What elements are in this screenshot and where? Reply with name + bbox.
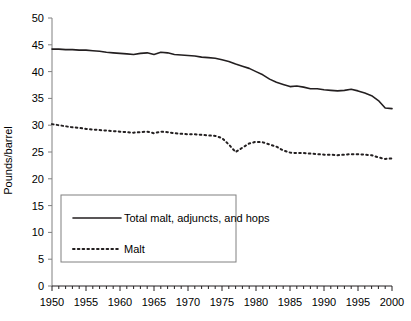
legend-label-1: Malt: [124, 243, 145, 255]
x-tick-label: 1960: [108, 296, 132, 308]
y-tick-label: 10: [32, 226, 44, 238]
x-tick-label: 1970: [176, 296, 200, 308]
x-tick-label: 1955: [74, 296, 98, 308]
y-tick-label: 5: [38, 253, 44, 265]
y-tick-label: 40: [32, 66, 44, 78]
chart-legend: Total malt, adjuncts, and hopsMalt: [61, 195, 270, 262]
series-line-1: [52, 124, 392, 159]
chart-plot: 05101520253035404550 1950195519601965197…: [0, 0, 411, 321]
x-tick-label: 2000: [380, 296, 404, 308]
x-axis-ticks: 1950195519601965197019751980198519901995…: [40, 286, 404, 308]
y-tick-label: 35: [32, 92, 44, 104]
series-line-0: [52, 49, 392, 108]
legend-label-0: Total malt, adjuncts, and hops: [124, 212, 270, 224]
y-tick-label: 20: [32, 173, 44, 185]
y-tick-label: 45: [32, 39, 44, 51]
chart-container: Pounds/barrel 05101520253035404550 19501…: [0, 0, 411, 321]
y-tick-label: 30: [32, 119, 44, 131]
data-series-group: [52, 49, 392, 159]
y-tick-label: 15: [32, 200, 44, 212]
x-tick-label: 1950: [40, 296, 64, 308]
x-tick-label: 1985: [278, 296, 302, 308]
y-tick-label: 25: [32, 146, 44, 158]
x-tick-label: 1980: [244, 296, 268, 308]
x-tick-label: 1975: [210, 296, 234, 308]
x-tick-label: 1990: [312, 296, 336, 308]
x-tick-label: 1995: [346, 296, 370, 308]
y-axis-ticks: 05101520253035404550: [32, 12, 52, 292]
y-tick-label: 0: [38, 280, 44, 292]
x-tick-label: 1965: [142, 296, 166, 308]
legend-box: [61, 195, 236, 262]
y-tick-label: 50: [32, 12, 44, 24]
